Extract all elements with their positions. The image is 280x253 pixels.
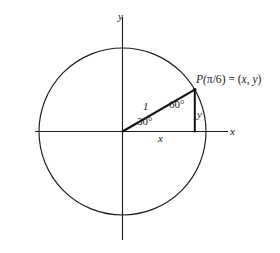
terminal-point-label-mid: ) = ( xyxy=(222,73,242,85)
unit-circle-figure: y x 1 30° 60° x y P(π/6) = (x, y) xyxy=(0,0,280,253)
terminal-point-label-close: ) xyxy=(258,73,262,85)
radius-segment xyxy=(123,90,195,132)
terminal-point-label: P(π/6) = (x, y) xyxy=(196,74,261,86)
angle-30-label: 30° xyxy=(137,116,152,127)
radius-length-label: 1 xyxy=(143,101,149,112)
terminal-point-label-p: P( xyxy=(196,73,207,85)
vertical-leg-label: y xyxy=(197,109,202,120)
horizontal-leg-label: x xyxy=(158,133,163,144)
angle-60-label: 60° xyxy=(169,99,184,110)
terminal-point-marker xyxy=(193,88,197,92)
y-axis-label: y xyxy=(118,11,123,22)
terminal-point-label-arg: π/6 xyxy=(207,73,222,85)
x-axis-label: x xyxy=(230,126,235,137)
